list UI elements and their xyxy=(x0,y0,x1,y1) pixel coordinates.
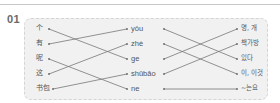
hanzi-item[interactable]: 个 xyxy=(36,24,43,33)
pinyin-item[interactable]: zhè xyxy=(131,39,143,48)
line-ge xyxy=(49,29,127,59)
line-you xyxy=(49,29,127,44)
hanzi-item[interactable]: 书包 xyxy=(36,84,50,93)
pinyin-item[interactable]: yǒu xyxy=(131,24,143,33)
hanzi-item[interactable]: 这 xyxy=(36,69,43,78)
hanzi-item[interactable]: 呢 xyxy=(36,54,43,63)
pinyin-item[interactable]: shūbāo xyxy=(131,69,156,78)
hanzi-item[interactable]: 有 xyxy=(36,39,43,48)
line-ne xyxy=(49,59,127,89)
korean-item[interactable]: 책가방 xyxy=(241,39,259,48)
line-zhe xyxy=(49,44,127,74)
korean-item[interactable]: 이, 이것 xyxy=(241,69,263,78)
pinyin-item[interactable]: ge xyxy=(131,54,139,63)
korean-item[interactable]: 명, 개 xyxy=(241,24,257,33)
korean-item[interactable]: ~는요 xyxy=(241,84,258,93)
pinyin-item[interactable]: ne xyxy=(131,84,139,93)
line-shubao xyxy=(53,74,127,89)
korean-item[interactable]: 있다 xyxy=(241,54,253,63)
